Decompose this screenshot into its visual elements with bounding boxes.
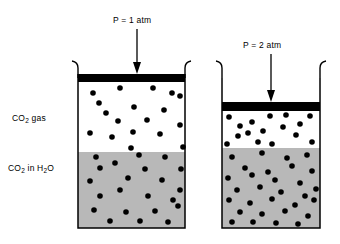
liquid-region-left xyxy=(78,152,185,228)
piston-left xyxy=(78,74,185,82)
pressure-label-right: P = 2 atm xyxy=(243,40,281,50)
piston-right xyxy=(222,102,320,111)
pressure-label-left: P = 1 atm xyxy=(113,15,151,25)
aqueous-phase-label: CO2 in H2O xyxy=(8,163,54,173)
gas-phase-label: CO2 gas xyxy=(12,113,46,123)
solubility-pressure-diagram: P = 1 atm P = 2 atm CO2 gas CO2 in H2O xyxy=(0,0,340,244)
diagram-canvas xyxy=(0,0,340,244)
